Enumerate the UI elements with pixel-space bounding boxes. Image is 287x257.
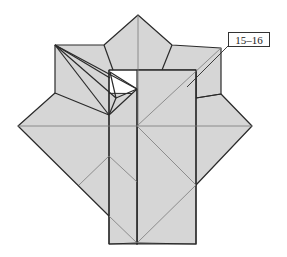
- step-label: 15–16: [228, 32, 270, 47]
- step-label-text: 15–16: [235, 34, 263, 46]
- front-rectangle: [137, 70, 196, 244]
- left-strip: [109, 89, 137, 244]
